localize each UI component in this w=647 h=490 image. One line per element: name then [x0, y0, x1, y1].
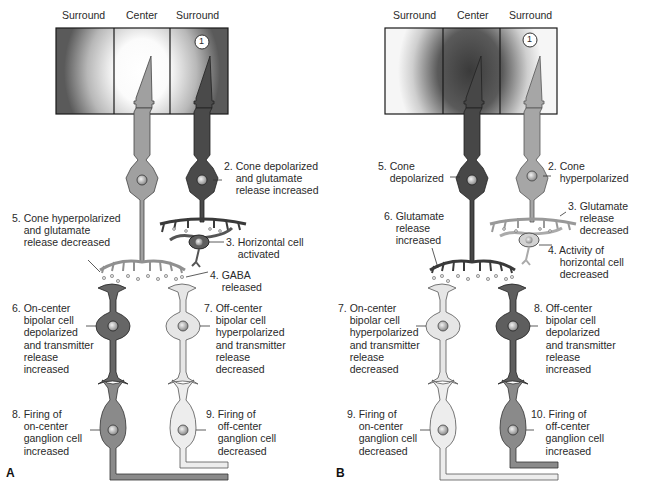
- on-center-bipolar-a: [96, 284, 130, 384]
- horizontal-cell-a: [170, 228, 232, 267]
- panel-letter-a: A: [6, 466, 15, 480]
- header-surround-right-b: Surround: [509, 9, 552, 21]
- panel-letter-b: B: [336, 466, 345, 480]
- label-horizontal-decreased-b: 4. Activity of horizontal cell decreased: [548, 244, 624, 281]
- header-center-a: Center: [126, 9, 158, 21]
- off-center-bipolar-a: [166, 284, 200, 384]
- label-on-bipolar-b: 7. On-center bipolar cell hyperpolarized…: [338, 302, 420, 375]
- on-center-bipolar-b: [426, 284, 460, 384]
- label-off-ganglion-a: 9. Firing of off-center ganglion cell de…: [206, 408, 276, 457]
- header-center-b: Center: [457, 9, 489, 21]
- step-marker-label-a: 1: [199, 36, 204, 46]
- label-on-ganglion-b: 9. Firing of on-center ganglion cell dec…: [347, 408, 417, 457]
- label-gaba-released-a: 4. GABA released: [210, 269, 262, 293]
- label-glutamate-increased-b: 6. Glutamate release increased: [384, 210, 444, 247]
- label-cone-hyperpolarized-b: 2. Cone hyperpolarized: [548, 160, 629, 184]
- off-center-bipolar-b: [496, 284, 530, 384]
- label-cone-depolarized-b: 5. Cone depolarized: [378, 160, 444, 184]
- label-off-bipolar-a: 7. Off-center bipolar cell hyperpolarize…: [204, 302, 286, 375]
- label-glutamate-decreased-b: 3. Glutamate release decreased: [568, 200, 629, 237]
- label-horizontal-activated-a: 3. Horizontal cell activated: [226, 236, 304, 260]
- step-marker-label-b: 1: [527, 34, 532, 44]
- label-off-ganglion-b: 10. Firing of off-center ganglion cell i…: [531, 408, 604, 457]
- header-surround-right-a: Surround: [176, 9, 219, 21]
- label-cone-depolarized-a: 2. Cone depolarized and glutamate releas…: [224, 160, 319, 197]
- label-off-bipolar-b: 8. Off-center bipolar cell depolarized a…: [534, 302, 616, 375]
- label-on-bipolar-a: 6. On-center bipolar cell depolarized an…: [12, 302, 94, 375]
- label-cone-hyperpolarized-a: 5. Cone hyperpolarized and glutamate rel…: [12, 212, 121, 249]
- label-on-ganglion-a: 8. Firing of on-center ganglion cell inc…: [12, 408, 82, 457]
- header-surround-left-b: Surround: [393, 9, 436, 21]
- header-surround-left-a: Surround: [62, 9, 105, 21]
